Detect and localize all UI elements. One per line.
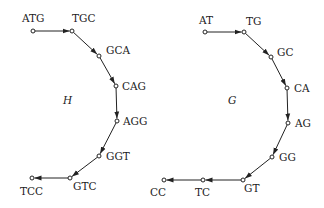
edge-arrow <box>245 33 269 55</box>
node-cag <box>114 84 118 88</box>
node-gg <box>270 155 274 159</box>
node-label: GTC <box>73 180 96 192</box>
graph-name: G <box>228 94 236 106</box>
node-gca <box>97 54 101 58</box>
node-cc <box>162 178 166 182</box>
edge-arrow <box>116 88 117 119</box>
node-gc <box>269 55 273 59</box>
node-label: TCC <box>20 185 43 197</box>
graph-h: ATGTGCGCACAGAGGGGTGTCTCCH <box>20 12 147 197</box>
node-tcc <box>30 176 34 180</box>
node-label: TGC <box>72 12 95 24</box>
node-label: CA <box>294 82 310 94</box>
node-label: GT <box>244 182 259 194</box>
node-tc <box>201 178 205 182</box>
node-label: AT <box>198 14 213 26</box>
edge-arrow <box>72 157 97 176</box>
edge-arrow <box>73 32 97 54</box>
node-label: CAG <box>122 80 146 92</box>
node-label: AG <box>294 117 311 129</box>
node-ag <box>286 121 290 125</box>
node-label: GCA <box>106 44 130 56</box>
graph-g: ATTGGCCAAGGGGTTCCCG <box>150 14 311 198</box>
node-label: CC <box>150 186 166 198</box>
node-label: AGG <box>122 115 147 127</box>
edge-arrow <box>245 158 270 178</box>
node-at <box>203 30 207 34</box>
node-label: GG <box>279 151 296 163</box>
de-bruijn-diagram: ATGTGCGCACAGAGGGGTGTCTCCH ATTGGCCAAGGGGT… <box>0 0 324 208</box>
node-gtc <box>68 176 72 180</box>
edge-arrow <box>100 58 115 84</box>
node-ggt <box>97 154 101 158</box>
node-label: ATG <box>21 12 44 24</box>
node-label: TC <box>195 186 210 198</box>
node-tg <box>242 30 246 34</box>
node-label: GGT <box>106 150 130 162</box>
node-label: TG <box>246 15 261 27</box>
node-label: GC <box>277 46 293 58</box>
edge-arrow <box>272 59 286 86</box>
node-atg <box>31 29 35 33</box>
graph-name: H <box>62 94 73 106</box>
node-agg <box>115 119 119 123</box>
node-ca <box>285 86 289 90</box>
node-tgc <box>70 29 74 33</box>
edge-arrow <box>287 90 288 121</box>
